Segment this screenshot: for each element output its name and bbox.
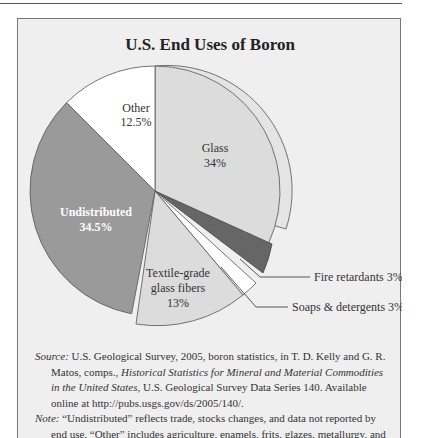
note-text: “Undistributed” reflects trade, stocks c… bbox=[51, 412, 386, 438]
chart-frame: U.S. End Uses of Boron Other 12.5% Glass… bbox=[17, 18, 401, 438]
label-undistributed-pct: 34.5% bbox=[80, 220, 113, 234]
label-fire-retardants: Fire retardants 3% bbox=[314, 270, 402, 284]
label-undistributed: Undistributed bbox=[60, 205, 132, 219]
label-textile-pct: 13% bbox=[167, 296, 189, 310]
label-textile-2: glass fibers bbox=[151, 281, 206, 295]
label-textile-1: Textile-grade bbox=[146, 266, 210, 280]
source-label: Source: bbox=[35, 350, 69, 362]
note: Note: “Undistributed” reflects trade, st… bbox=[35, 411, 391, 438]
label-glass: Glass bbox=[202, 141, 229, 155]
label-soaps-detergents: Soaps & detergents 3% bbox=[292, 300, 402, 314]
top-rule bbox=[0, 3, 402, 4]
chart-notes: Source: U.S. Geological Survey, 2005, bo… bbox=[35, 349, 391, 438]
source-note: Source: U.S. Geological Survey, 2005, bo… bbox=[35, 349, 391, 411]
label-other-pct: 12.5% bbox=[121, 115, 152, 129]
note-label: Note: bbox=[35, 412, 59, 424]
label-other: Other bbox=[122, 101, 149, 115]
pie-chart: Other 12.5% Glass 34% Undistributed 34.5… bbox=[18, 19, 402, 349]
label-glass-pct: 34% bbox=[204, 156, 226, 170]
